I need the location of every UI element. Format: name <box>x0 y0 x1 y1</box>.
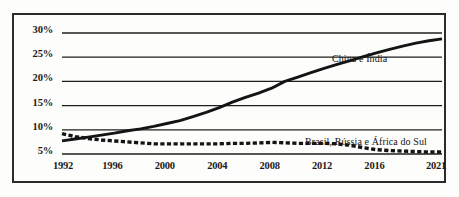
x-tick-label: 2021 <box>416 160 456 171</box>
x-tick-label: 2000 <box>145 160 185 171</box>
x-tick-label: 1992 <box>43 160 83 171</box>
series-label-brasil-russia-africa: Brasil, Rússia e África do Sul <box>305 136 427 147</box>
x-tick-label: 2012 <box>302 160 342 171</box>
chart-plot-area <box>14 15 444 181</box>
x-tick-label: 2008 <box>250 160 290 171</box>
x-tick-label: 2004 <box>197 160 237 171</box>
y-tick-label: 5% <box>19 145 53 156</box>
y-tick-label: 20% <box>19 72 53 83</box>
y-tick-label: 15% <box>19 97 53 108</box>
x-tick-label: 1996 <box>92 160 132 171</box>
x-tick-label: 2016 <box>354 160 394 171</box>
series-label-china-india: China e Índia <box>332 53 387 64</box>
chart-figure: China e Índia Brasil, Rússia e África do… <box>0 0 459 197</box>
y-tick-label: 10% <box>19 121 53 132</box>
chart-frame: China e Índia Brasil, Rússia e África do… <box>12 13 446 183</box>
y-tick-label: 25% <box>19 48 53 59</box>
y-tick-label: 30% <box>19 24 53 35</box>
